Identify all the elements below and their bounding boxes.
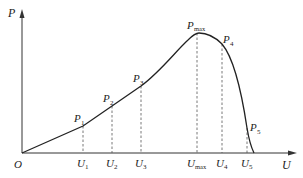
point-label-p5: P 5 xyxy=(249,121,261,136)
power-curve xyxy=(22,33,254,153)
svg-text:2: 2 xyxy=(110,99,114,107)
tick-label-u1: U 1 xyxy=(77,157,89,171)
point-label-p1: P 1 xyxy=(73,112,85,127)
svg-text:4: 4 xyxy=(230,40,234,48)
tick-label-u2: U 2 xyxy=(106,157,118,171)
svg-text:5: 5 xyxy=(249,163,253,171)
svg-text:max: max xyxy=(194,25,206,32)
svg-text:P: P xyxy=(73,112,81,124)
tick-label-umax: U max xyxy=(187,157,207,170)
svg-text:max: max xyxy=(195,163,207,170)
x-axis-arrow-icon xyxy=(288,151,297,156)
tick-label-u4: U 4 xyxy=(216,157,228,171)
svg-text:1: 1 xyxy=(85,163,89,171)
svg-text:3: 3 xyxy=(143,163,147,171)
point-label-p2: P 2 xyxy=(102,92,114,107)
svg-text:P: P xyxy=(132,72,140,84)
svg-text:4: 4 xyxy=(224,163,228,171)
point-label-pmax: P max xyxy=(186,19,206,32)
p-u-curve-diagram: P U O P 1 P 2 P 3 P max P 4 P 5 U 1 U 2 … xyxy=(0,0,303,178)
tick-label-u5: U 5 xyxy=(241,157,253,171)
svg-text:P: P xyxy=(102,92,110,104)
svg-text:P: P xyxy=(222,33,230,45)
y-axis-label: P xyxy=(7,6,16,20)
tick-label-u3: U 3 xyxy=(135,157,147,171)
origin-label: O xyxy=(14,158,22,170)
svg-text:2: 2 xyxy=(114,163,118,171)
x-axis-label: U xyxy=(282,158,292,172)
svg-text:1: 1 xyxy=(81,119,85,127)
svg-text:P: P xyxy=(249,121,257,133)
svg-text:5: 5 xyxy=(257,128,261,136)
point-label-p3: P 3 xyxy=(132,72,144,87)
svg-text:3: 3 xyxy=(140,79,144,87)
y-axis-arrow-icon xyxy=(20,9,25,18)
svg-text:P: P xyxy=(186,19,194,31)
